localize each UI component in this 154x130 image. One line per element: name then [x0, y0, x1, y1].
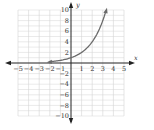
y-tick-label: 4: [65, 38, 69, 46]
y-tick-label: −8: [59, 102, 69, 110]
y-tick-label: −6: [59, 91, 69, 99]
curve-right-arrow-icon: [103, 8, 107, 14]
y-tick-label: −10: [55, 112, 69, 120]
x-tick-label: 5: [122, 65, 126, 73]
y-tick-label: 2: [65, 49, 69, 57]
y-tick-label: −4: [59, 80, 69, 88]
chart-plot: −5−4−3−2−112345108642−2−4−6−8−10 x y: [0, 0, 154, 130]
x-tick-label: 2: [90, 65, 94, 73]
y-tick-label: 10: [61, 6, 69, 14]
x-tick-label: −5: [13, 65, 23, 73]
x-tick-label: 4: [111, 65, 115, 73]
x-tick-label: −4: [24, 65, 34, 73]
y-axis-up-arrow-icon: [69, 2, 73, 8]
y-axis-down-arrow-icon: [69, 118, 73, 124]
x-tick-label: 1: [80, 65, 84, 73]
data-series: [47, 8, 108, 64]
y-axis-label: y: [75, 1, 80, 9]
x-tick-label: 3: [101, 65, 105, 73]
x-tick-label: −3: [34, 65, 44, 73]
x-tick-label: −2: [45, 65, 55, 73]
y-tick-label: 8: [65, 17, 69, 25]
axes: [5, 2, 135, 124]
x-axis-left-arrow-icon: [5, 61, 11, 65]
y-tick-label: −2: [59, 70, 69, 78]
y-tick-label: 6: [65, 27, 69, 35]
exponential-curve: [50, 11, 106, 62]
x-axis-label: x: [134, 54, 138, 62]
